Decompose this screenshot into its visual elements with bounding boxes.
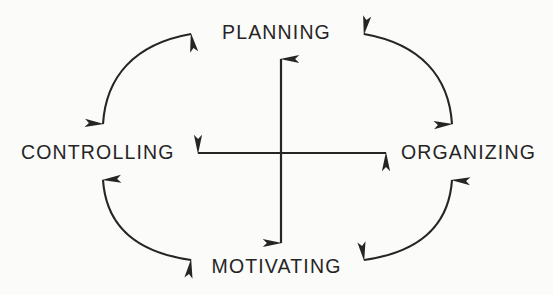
management-cycle-diagram: PLANNING ORGANIZING MOTIVATING CONTROLLI… xyxy=(0,0,553,295)
node-label-motivating: MOTIVATING xyxy=(0,257,553,277)
arc-organizing-motivating xyxy=(364,180,452,260)
node-label-planning: PLANNING xyxy=(0,23,553,43)
node-label-organizing: ORGANIZING xyxy=(401,143,536,163)
arc-controlling-planning xyxy=(103,34,191,124)
arc-controlling-motivating xyxy=(103,180,191,260)
arc-organizing-planning xyxy=(364,34,452,124)
node-label-controlling: CONTROLLING xyxy=(21,143,175,163)
